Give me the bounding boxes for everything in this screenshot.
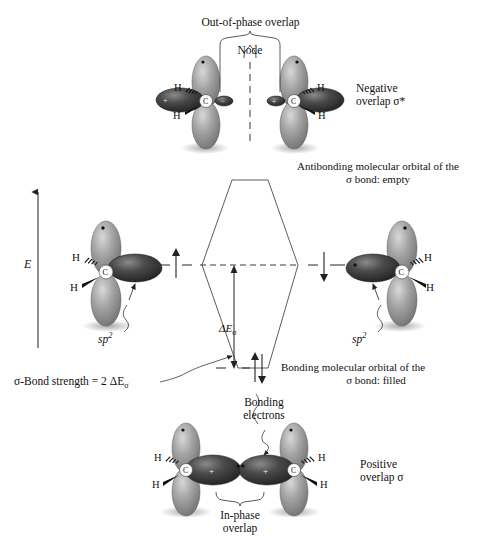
hydrogen-label-right-sp2-upper: H [424, 251, 432, 264]
svg-text:C: C [183, 466, 188, 475]
positive-overlap-label: Positive overlap σ [360, 458, 466, 484]
antibonding-mo-line2: σ bond: empty [280, 173, 476, 186]
sigma-bond-strength-label: σ-Bond strength = 2 ΔEσ [14, 375, 129, 391]
orbital-sp2-right: C [346, 221, 426, 332]
hydrogen-label-left-sp2-upper: H [72, 251, 80, 264]
out-of-phase-overlap-label: Out-of-phase overlap [178, 16, 323, 29]
energy-axis-label: E [24, 258, 31, 272]
bonding-electrons-line1: Bonding [216, 396, 312, 409]
sp2-label-right: sp2 [352, 331, 366, 346]
hydrogen-label-left-sp2-lower: H [70, 281, 78, 294]
sp2-left-exponent: 2 [108, 331, 112, 340]
antibonding-mo-label: Antibonding molecular orbital of the σ b… [280, 160, 476, 185]
in-phase-line2: overlap [206, 522, 274, 535]
svg-text:+: + [263, 466, 268, 476]
bonding-electrons-label: Bonding electrons [216, 396, 312, 422]
positive-overlap-line1: Positive [360, 458, 466, 471]
sp2-right-exponent: 2 [362, 331, 366, 340]
hydrogen-label-top-left-lower: H [173, 110, 181, 122]
svg-text:−: − [221, 98, 225, 106]
svg-text:C: C [103, 268, 108, 277]
sigma-bond-strength-subscript: σ [124, 381, 128, 390]
orbital-top-right: + C [267, 56, 344, 154]
svg-text:+: + [163, 96, 168, 105]
delta-e-sigma-label: ΔEσ [219, 322, 236, 337]
orbital-top-left: + − C [156, 56, 233, 154]
delta-e-subscript: σ [232, 328, 236, 337]
svg-text:C: C [291, 97, 296, 106]
sigma-bond-strength-text: σ-Bond strength = 2 ΔE [14, 375, 124, 387]
hydrogen-label-right-sp2-lower: H [426, 281, 434, 294]
figure-canvas: + − C + C [0, 0, 480, 552]
negative-overlap-label: Negative overlap σ* [356, 82, 466, 108]
bonding-mo-label: Bonding molecular orbital of the σ bond:… [281, 361, 471, 386]
hydrogen-label-top-right-lower: H [318, 110, 326, 122]
orbital-sp2-left: C [82, 221, 162, 332]
hydrogen-label-bottom-left-lower: H [152, 479, 160, 491]
electron-arrow-up-left [172, 248, 180, 278]
sp2-right-text: sp [352, 333, 362, 345]
hydrogen-label-bottom-right-upper: H [318, 452, 326, 464]
svg-text:+: + [209, 466, 214, 476]
sp2-label-left: sp2 [98, 331, 112, 346]
positive-overlap-line2: overlap σ [360, 471, 466, 484]
bonding-electrons-line2: electrons [216, 409, 312, 422]
mo-correlation-diagram [155, 179, 345, 424]
bonding-mo-line2: σ bond: filled [281, 374, 471, 387]
bonding-mo-line1: Bonding molecular orbital of the [281, 361, 471, 374]
svg-text:C: C [291, 466, 296, 475]
svg-text:+: + [272, 98, 276, 106]
hydrogen-label-bottom-right-lower: H [320, 479, 328, 491]
svg-text:C: C [203, 97, 208, 106]
negative-overlap-line1: Negative [356, 82, 466, 95]
hydrogen-label-top-left-upper: H [174, 82, 182, 94]
antibonding-mo-line1: Antibonding molecular orbital of the [280, 160, 476, 173]
orbital-pair-in-phase: + + C C [160, 423, 320, 518]
node-label: Node [226, 44, 274, 57]
in-phase-overlap-label: In-phase overlap [206, 509, 274, 535]
hydrogen-label-top-right-upper: H [317, 82, 325, 94]
hydrogen-label-bottom-left-upper: H [154, 452, 162, 464]
svg-text:C: C [399, 268, 404, 277]
in-phase-line1: In-phase [206, 509, 274, 522]
negative-overlap-line2: overlap σ* [356, 95, 466, 108]
electron-arrow-down-right [320, 252, 328, 282]
sp2-left-text: sp [98, 333, 108, 345]
delta-e-arrow [231, 265, 238, 369]
delta-e-text: ΔE [219, 322, 232, 334]
